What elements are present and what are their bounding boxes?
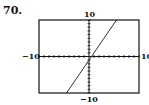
graph-window <box>0 0 149 105</box>
